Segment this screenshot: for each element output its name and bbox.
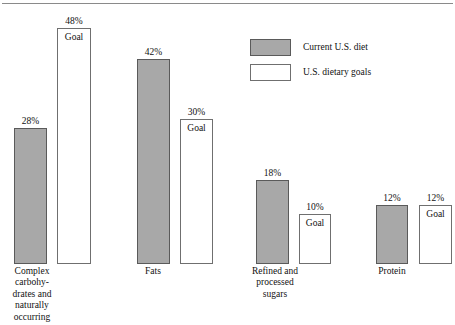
bar-group4-current: [376, 205, 408, 264]
plot-area: 28% 48% Goal Complex carbohy- drates and…: [0, 0, 455, 325]
bar-value-group4-goal: 12%: [419, 193, 452, 203]
group-label-line: Complex: [2, 266, 62, 277]
legend-swatch-us-dietary-goals: [250, 64, 291, 81]
bar-group2-goal: [180, 119, 213, 264]
legend-label-us-dietary-goals: U.S. dietary goals: [303, 67, 371, 78]
bar-value-group3-current: 18%: [256, 168, 289, 178]
group-label-line: occurring: [2, 312, 62, 323]
legend-swatch-current-us-diet: [250, 39, 291, 56]
legend-item-current-us-diet: Current U.S. diet: [250, 38, 371, 56]
legend-label-current-us-diet: Current U.S. diet: [303, 42, 368, 53]
bar-group2-current: [137, 59, 170, 264]
bar-value-group3-goal: 10%: [299, 202, 331, 212]
chart-legend: Current U.S. diet U.S. dietary goals: [250, 38, 371, 88]
group-label-line: sugars: [240, 289, 310, 300]
bar-value-group4-current: 12%: [376, 193, 408, 203]
bar-inner-label-group4-goal: Goal: [419, 209, 452, 219]
bar-inner-label-group3-goal: Goal: [299, 218, 331, 228]
group-label-line: naturally: [2, 300, 62, 311]
bar-group1-current: [14, 128, 47, 264]
group-label-line: Fats: [123, 266, 183, 277]
group-label-protein: Protein: [362, 266, 422, 277]
group-label-line: drates and: [2, 289, 62, 300]
bar-chart-figure: 28% 48% Goal Complex carbohy- drates and…: [0, 0, 455, 325]
group-label-complex-carbohydrates: Complex carbohy- drates and naturally oc…: [2, 266, 62, 323]
group-label-line: Refined and: [240, 266, 310, 277]
bar-group1-goal: [57, 28, 91, 264]
bar-value-group1-goal: 48%: [57, 16, 91, 26]
bar-value-group1-current: 28%: [14, 116, 47, 126]
bar-value-group2-current: 42%: [137, 47, 170, 57]
group-label-line: Protein: [362, 266, 422, 277]
bar-inner-label-group1-goal: Goal: [57, 32, 91, 42]
bar-group3-current: [256, 180, 289, 264]
bar-value-group2-goal: 30%: [180, 107, 213, 117]
group-label-line: processed: [240, 277, 310, 288]
legend-item-us-dietary-goals: U.S. dietary goals: [250, 63, 371, 81]
group-label-fats: Fats: [123, 266, 183, 277]
bar-inner-label-group2-goal: Goal: [180, 123, 213, 133]
group-label-refined-processed-sugars: Refined and processed sugars: [240, 266, 310, 300]
group-label-line: carbohy-: [2, 277, 62, 288]
